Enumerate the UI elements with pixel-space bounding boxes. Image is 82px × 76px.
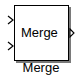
block-name-label[interactable]: Merge <box>0 60 82 75</box>
output-port-triangle-icon <box>70 29 74 37</box>
block-icon-text: Merge <box>15 25 68 40</box>
input-port-chevron-icon <box>8 16 13 24</box>
output-port-1[interactable] <box>70 29 74 37</box>
merge-block[interactable]: Merge <box>14 5 69 61</box>
input-port-2[interactable] <box>8 42 13 50</box>
input-port-chevron-icon <box>8 42 13 50</box>
input-port-1[interactable] <box>8 16 13 24</box>
